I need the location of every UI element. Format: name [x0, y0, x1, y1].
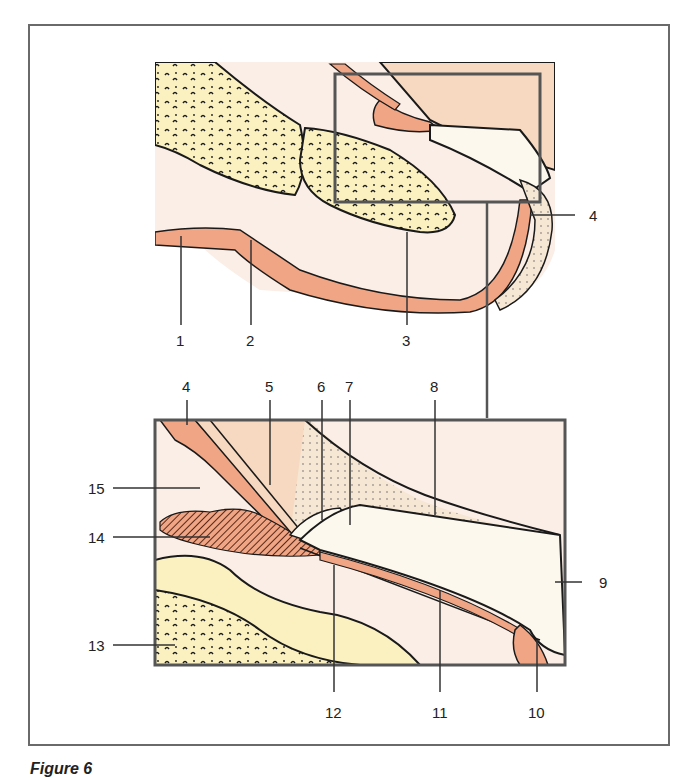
label-12: 12: [325, 705, 342, 720]
label-1: 1: [176, 333, 184, 348]
label-7: 7: [345, 379, 353, 394]
label-6: 6: [317, 379, 325, 394]
label-14: 14: [88, 530, 105, 545]
label-8: 8: [430, 379, 438, 394]
label-9: 9: [599, 575, 607, 590]
label-15: 15: [88, 481, 105, 496]
label-10: 10: [528, 705, 545, 720]
label-11: 11: [432, 705, 448, 720]
label-4-detail: 4: [182, 379, 190, 394]
figure-caption: Figure 6: [30, 760, 92, 778]
overview-illustration: [155, 62, 555, 313]
label-4-overview: 4: [589, 208, 597, 223]
detail-illustration: [155, 420, 565, 665]
label-3: 3: [402, 333, 410, 348]
label-5: 5: [265, 379, 273, 394]
label-2: 2: [246, 333, 254, 348]
label-13: 13: [88, 638, 105, 653]
